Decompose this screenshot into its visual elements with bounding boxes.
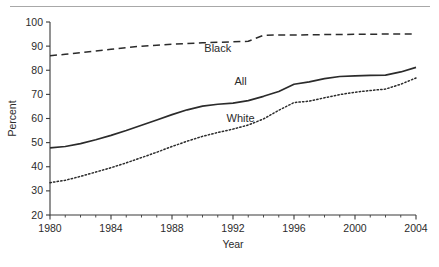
x-tick-label-1992: 1992	[221, 222, 245, 234]
x-tick-label-1996: 1996	[282, 222, 306, 234]
y-tick-label-30: 30	[31, 184, 43, 196]
y-tick-label-90: 90	[31, 40, 43, 52]
y-tick-label-100: 100	[25, 16, 43, 28]
series-label-white: White	[227, 112, 255, 124]
line-chart-plot: 2030405060708090100198019841988199219962…	[0, 0, 439, 267]
series-label-black: Black	[204, 42, 231, 54]
x-tick-label-2004: 2004	[404, 222, 428, 234]
x-tick-label-1980: 1980	[38, 222, 62, 234]
series-label-all: All	[235, 75, 247, 87]
y-tick-label-20: 20	[31, 209, 43, 221]
chart-figure: 2030405060708090100198019841988199219962…	[0, 0, 439, 267]
y-axis-title: Percent	[6, 100, 18, 136]
y-tick-label-40: 40	[31, 160, 43, 172]
x-tick-label-1984: 1984	[99, 222, 123, 234]
series-line-all	[50, 67, 416, 148]
x-tick-label-2000: 2000	[343, 222, 367, 234]
y-tick-label-70: 70	[31, 88, 43, 100]
y-tick-label-80: 80	[31, 64, 43, 76]
y-tick-label-50: 50	[31, 136, 43, 148]
x-tick-label-1988: 1988	[160, 222, 184, 234]
x-axis-title: Year	[222, 238, 244, 250]
series-line-white	[50, 78, 416, 183]
series-line-black	[50, 34, 416, 56]
y-tick-label-60: 60	[31, 112, 43, 124]
